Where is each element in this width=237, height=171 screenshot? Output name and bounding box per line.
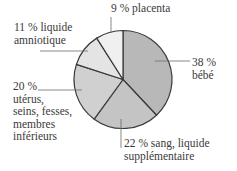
label-placenta: 9 % placenta (111, 2, 170, 15)
label-uterus-line-3: seins, fesses, (13, 105, 72, 118)
label-uterus-line-1: 20 % (13, 80, 72, 93)
label-liquide-amniotique: 11 % liquide amniotique (14, 21, 72, 46)
label-uterus: 20 % utérus, seins, fesses, membres infé… (13, 80, 72, 143)
label-uterus-line-5: inférieurs (13, 130, 72, 143)
label-sang-line-2: supplémentaire (124, 150, 210, 163)
label-uterus-line-4: membres (13, 118, 72, 131)
label-uterus-line-2: utérus, (13, 93, 72, 106)
label-sang-line-1: 22 % sang, liquide (124, 137, 210, 150)
label-placenta-line-1: 9 % placenta (111, 2, 170, 15)
label-sang: 22 % sang, liquide supplémentaire (124, 137, 210, 162)
label-bebe-line-1: 38 % (192, 56, 216, 69)
label-amnio-line-1: 11 % liquide (14, 21, 72, 34)
label-bebe: 38 % bébé (192, 56, 216, 81)
label-amnio-line-2: amniotique (14, 34, 72, 47)
pie-slices (74, 31, 172, 129)
label-bebe-line-2: bébé (192, 69, 216, 82)
